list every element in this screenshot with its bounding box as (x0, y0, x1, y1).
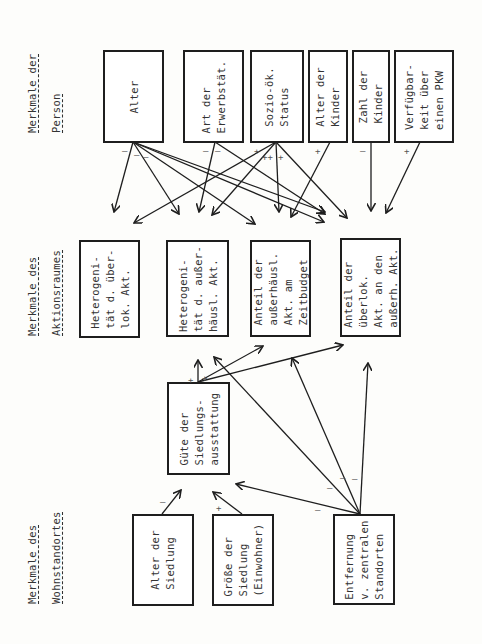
sign-label: – (352, 474, 357, 484)
sign-label: ++ (262, 152, 273, 162)
box-groesse-label: Größe der Siedlung (Einwohner) (221, 524, 266, 597)
box-art-erwerbstaetigkeit: Art der Erwerbstät. (183, 50, 244, 143)
sign-label: – (327, 483, 332, 493)
sign-label: + (188, 375, 193, 385)
sign-label: + (202, 373, 207, 383)
sign-label: + (216, 503, 221, 513)
box-het-ausserhaeusl: Heterogeni- tät d. außer- häusl. Akt. (166, 240, 229, 337)
box-anteil-ausser-label: Anteil der außerhäusl. Akt. am Zeitbudge… (251, 252, 311, 325)
box-alter-siedlung-label: Alter der Siedlung (148, 530, 178, 590)
box-alter-siedlung: Alter der Siedlung (132, 514, 194, 606)
sign-label: + (315, 146, 320, 156)
sign-label: – (360, 146, 365, 156)
box-alter-kinder: Alter der Kinder (308, 50, 348, 143)
box-zahl-kinder-label: Zahl der Kinder (356, 70, 386, 123)
box-sozio-status: Sozio-ök. Status (250, 50, 304, 143)
box-zahl-kinder: Zahl der Kinder (352, 50, 390, 143)
sign-label: – (143, 152, 148, 162)
box-erwerb-label: Art der Erwerbstät. (199, 60, 229, 133)
box-groesse-siedlung: Größe der Siedlung (Einwohner) (212, 514, 274, 606)
box-anteil-ueberlok: Anteil der überlok. Akt. an den außerh. … (340, 238, 401, 337)
box-guete-siedlungsausstattung: Güte der Siedlungs- ausstattung (167, 382, 230, 475)
box-pkw-label: Verfügbar- keit über einen PKW (402, 63, 447, 129)
sign-label: – (315, 505, 320, 515)
box-guete-label: Güte der Siedlungs- ausstattung (176, 392, 221, 465)
box-alter: Alter (103, 50, 164, 143)
sign-label: + (254, 146, 259, 156)
box-alter-kinder-label: Alter der Kinder (313, 67, 343, 127)
sign-label: – (122, 146, 127, 156)
box-sozio-label: Sozio-ök. Status (262, 67, 292, 127)
sign-label: + (278, 152, 283, 162)
box-entfernung: Entfernung v. zentralen Standorten (333, 514, 395, 605)
sign-label: + (404, 146, 409, 156)
box-het-ausser-label: Heterogeni- tät d. außer- häusl. Akt. (175, 245, 220, 331)
box-anteil-ausserhaeusl: Anteil der außerhäusl. Akt. am Zeitbudge… (250, 240, 311, 337)
box-entfernung-label: Entfernung v. zentralen Standorten (342, 520, 387, 599)
box-het-ueberlok-label: Heterogeni- tät d. über- lok. Akt. (87, 249, 132, 328)
box-het-ueberlok: Heterogeni- tät d. über- lok. Akt. (79, 240, 140, 338)
sign-label: – (134, 150, 139, 160)
box-pkw: Verfügbar- keit über einen PKW (394, 50, 454, 143)
sign-label: – (340, 473, 345, 483)
box-alter-label: Alter (126, 80, 141, 113)
sign-label: – (203, 146, 208, 156)
sign-label: – (160, 497, 165, 507)
sign-label: – (215, 146, 220, 156)
box-anteil-ueberlok-label: Anteil der überlok. Akt. an den außerh. … (341, 248, 401, 327)
